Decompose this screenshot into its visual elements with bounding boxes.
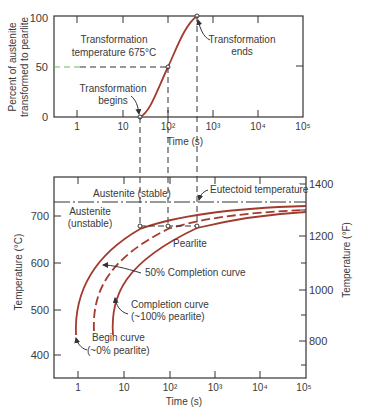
bottom-xtick-1: 1	[75, 382, 81, 393]
isotherm-fifty-point	[166, 224, 170, 228]
top-ylabel-line2: transformed to pearlite	[19, 17, 30, 117]
bottom-chart: 700 600 500 400 1400 1200 1000 800 1 10 …	[13, 177, 352, 407]
bottom-rtick-1200: 1200	[309, 230, 333, 242]
begins-arrow-icon	[131, 96, 139, 114]
annotation-ends-line2: ends	[231, 46, 253, 57]
bottom-ytick-400: 400	[31, 349, 49, 361]
annotation-temp-line1: Transformation	[81, 34, 148, 45]
label-completion-2: (~100% pearlite)	[131, 311, 205, 322]
label-pearlite: Pearlite	[173, 238, 207, 249]
annotation-begins-line2: begins	[98, 95, 127, 106]
bottom-ytick-700: 700	[31, 210, 49, 222]
bottom-xtick-1000: 10³	[208, 382, 223, 393]
figure-canvas: 100 50 0 1 10 10² 10³ 10⁴ 10⁵ Time (s) P…	[0, 0, 366, 419]
bottom-xtick-100: 10²	[163, 382, 178, 393]
top-chart: 100 50 0 1 10 10² 10³ 10⁴ 10⁵ Time (s) P…	[7, 12, 311, 147]
top-ytick-0: 0	[42, 111, 48, 123]
bottom-ylabel-left: Temperature (°C)	[13, 234, 24, 311]
bottom-ylabel-right: Temperature (°F)	[341, 222, 352, 298]
top-xtick-10000: 10⁴	[250, 121, 265, 132]
top-ytick-100: 100	[30, 12, 48, 24]
annotation-begins-line1: Transformation	[80, 83, 147, 94]
bottom-ytick-500: 500	[31, 304, 49, 316]
top-xtick-1000: 10³	[206, 121, 221, 132]
top-xlabel: Time (s)	[167, 136, 203, 147]
isotherm-end-point	[195, 224, 199, 228]
bottom-xtick-10000: 10⁴	[252, 382, 267, 393]
top-ytick-50: 50	[36, 61, 48, 73]
label-eutectoid: Eutectoid temperature	[210, 184, 309, 195]
begin-arrow-icon	[76, 338, 87, 350]
eutectoid-arrow-icon	[199, 190, 208, 200]
label-austenite-unstable-1: Austenite	[69, 206, 111, 217]
bottom-ytick-600: 600	[31, 257, 49, 269]
bottom-rtick-1000: 1000	[309, 284, 333, 296]
label-austenite-unstable-2: (unstable)	[68, 218, 112, 229]
label-fifty-percent: 50% Completion curve	[145, 267, 246, 278]
annotation-ends-line1: Transformation	[209, 34, 276, 45]
bottom-rtick-1400: 1400	[309, 178, 333, 190]
label-completion-1: Completion curve	[131, 299, 209, 310]
isotherm-begin-point	[138, 224, 142, 228]
label-begin-1: Begin curve	[92, 332, 145, 343]
top-xtick-100000: 10⁵	[295, 121, 310, 132]
bottom-rtick-800: 800	[309, 335, 327, 347]
top-xtick-10: 10	[117, 121, 129, 132]
label-begin-2: (~0% pearlite)	[87, 345, 150, 356]
top-xtick-1: 1	[74, 121, 80, 132]
label-austenite-stable: Austenite (stable)	[93, 188, 171, 199]
bottom-xlabel: Time (s)	[166, 396, 202, 407]
annotation-temp-line2: temperature 675°C	[72, 47, 157, 58]
top-ylabel-line1: Percent of austenite	[7, 22, 18, 111]
bottom-xtick-10: 10	[118, 382, 130, 393]
bottom-xtick-100000: 10⁵	[296, 382, 311, 393]
